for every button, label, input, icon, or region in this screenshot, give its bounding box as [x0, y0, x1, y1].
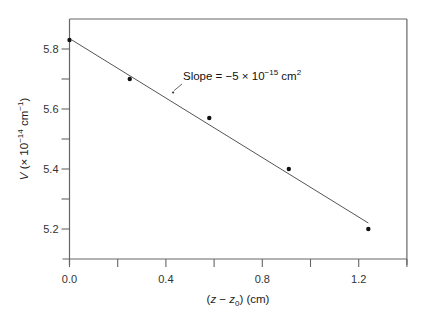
x-tick-label: 0.4: [158, 273, 173, 285]
annotation-arrow-head: [172, 91, 174, 93]
fit-line: [72, 40, 368, 223]
x-tick-label: 0.8: [255, 273, 270, 285]
y-tick-label: 5.4: [43, 163, 58, 175]
data-series: [67, 38, 370, 231]
y-tick-label: 5.6: [43, 103, 58, 115]
annotation-leader-line: [174, 84, 182, 91]
x-tick-label: 1.2: [351, 273, 366, 285]
y-axis-title: V (× 10−14 cm−1): [16, 98, 30, 181]
chart: 0.00.40.81.2 5.25.45.65.8 (z − z0) (cm) …: [0, 0, 428, 315]
x-axis-title: (z − z0) (cm): [207, 293, 270, 308]
slope-annotation: Slope = −5 × 10−15 cm2: [183, 68, 302, 82]
x-axis-ticks: 0.00.40.81.2: [62, 259, 407, 285]
y-tick-label: 5.2: [43, 223, 58, 235]
data-point: [67, 38, 71, 42]
annotations: [172, 84, 182, 94]
x-tick-label: 0.0: [62, 273, 77, 285]
data-point: [207, 116, 211, 120]
y-tick-label: 5.8: [43, 43, 58, 55]
data-point: [366, 227, 370, 231]
plot-frame: [63, 19, 407, 265]
data-point: [128, 77, 132, 81]
y-axis-ticks: 5.25.45.65.8: [43, 43, 69, 235]
data-point: [287, 167, 291, 171]
